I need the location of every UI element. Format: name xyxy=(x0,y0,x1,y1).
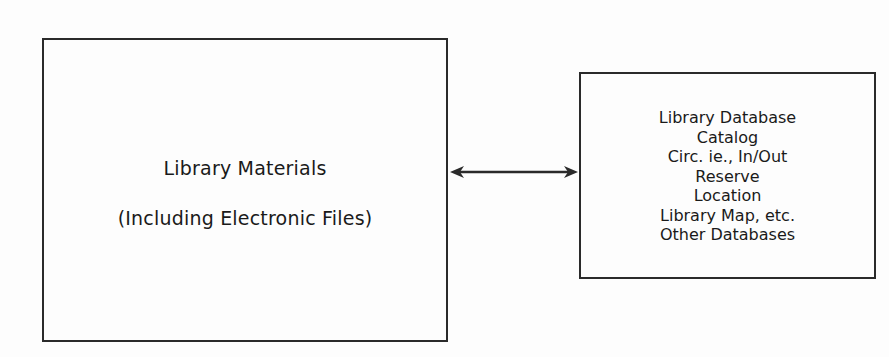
library-materials-box: Library Materials (Including Electronic … xyxy=(42,38,448,342)
database-line: Library Map, etc. xyxy=(581,206,874,226)
database-line: Reserve xyxy=(581,167,874,187)
database-line: Catalog xyxy=(581,128,874,148)
library-materials-title: Library Materials xyxy=(44,157,446,179)
database-list: Library Database Catalog Circ. ie., In/O… xyxy=(581,108,874,245)
database-line: Location xyxy=(581,186,874,206)
database-line: Library Database xyxy=(581,108,874,128)
database-line: Circ. ie., In/Out xyxy=(581,147,874,167)
library-database-box: Library Database Catalog Circ. ie., In/O… xyxy=(579,72,876,279)
library-materials-subtitle: (Including Electronic Files) xyxy=(44,207,446,229)
database-line: Other Databases xyxy=(581,225,874,245)
bidirectional-arrow-icon xyxy=(450,163,578,181)
